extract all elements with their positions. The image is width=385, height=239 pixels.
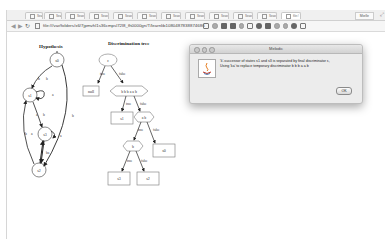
svg-text:false: false (153, 128, 160, 132)
discrimination-tree-title: Discrimination tree (108, 41, 150, 46)
hypothesis-title: Hypothesis (39, 44, 63, 49)
svg-text:s3: s3 (117, 176, 121, 181)
svg-text:false: false (119, 72, 126, 76)
svg-text:b: b (72, 114, 74, 118)
svg-text:s0: s0 (162, 148, 166, 153)
svg-text:true: true (138, 128, 144, 132)
svg-text:s3: s3 (43, 132, 47, 137)
svg-text:b: b (132, 145, 134, 149)
dialog-title-bar: Melodic (190, 45, 362, 54)
svg-text:a: a (31, 132, 33, 136)
alert-dialog: Melodic 'k'-successor of states s1 and s… (189, 44, 363, 104)
svg-text:null: null (88, 89, 95, 94)
svg-text:b b b a a b: b b b a a b (121, 90, 137, 94)
svg-text:true: true (127, 159, 133, 163)
svg-text:s2: s2 (37, 168, 41, 173)
svg-text:s1: s1 (28, 93, 32, 98)
svg-text:ba: ba (46, 151, 50, 155)
svg-text:b: b (46, 77, 48, 81)
svg-text:s1: s1 (120, 116, 124, 121)
window-controls (194, 47, 215, 53)
minimize-icon[interactable] (202, 47, 208, 53)
dialog-message: 'k'-successor of states s1 and s3 is sep… (220, 59, 356, 69)
page-content: Hypothesis s0 s1 s3 s2 b b a b a b b a a (0, 0, 385, 239)
dialog-title: Melodic (269, 46, 283, 51)
zoom-icon[interactable] (209, 47, 215, 53)
svg-text:b: b (38, 77, 40, 81)
discrimination-tree: ε true false null b b b a a b true false… (83, 54, 175, 185)
svg-text:a b: a b (142, 116, 147, 120)
ok-button[interactable]: OK (336, 87, 352, 95)
svg-text:a: a (52, 93, 54, 97)
svg-text:true: true (126, 102, 132, 106)
svg-text:s0: s0 (55, 58, 59, 63)
svg-text:true: true (100, 72, 106, 76)
java-app-icon (198, 59, 216, 78)
svg-text:false: false (141, 159, 148, 163)
svg-text:b: b (25, 132, 27, 136)
close-icon[interactable] (194, 47, 200, 53)
svg-text:s2: s2 (146, 176, 150, 181)
svg-text:false: false (140, 102, 147, 106)
hypothesis-graph: s0 s1 s3 s2 b b a b a b b a a ba (23, 51, 74, 177)
svg-text:a: a (60, 134, 62, 138)
svg-text:b: b (43, 113, 45, 117)
